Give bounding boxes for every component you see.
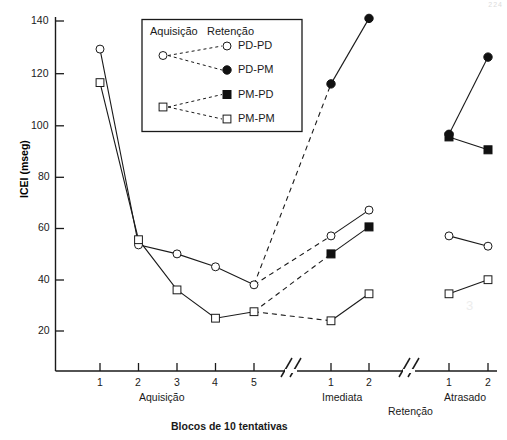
x-axis-title: Blocos de 10 tentativas [171,420,288,432]
y-axis-ticks [56,21,65,331]
legend-label-pd-pm: PD-PM [238,63,273,75]
x-tick-label-acq-1: 1 [97,376,103,388]
legend-label-pm-pd: PM-PD [238,88,273,100]
x-tick-label-acq-4: 4 [212,376,218,388]
legend-marker-pd-pm-icon [223,66,231,74]
y-tick-label-40: 40 [38,273,50,285]
y-tick-label-20: 20 [38,324,50,336]
legend-header-retention: Retenção [207,25,254,37]
x-group-label-retention: Retenção [388,405,433,417]
x-tick-label-imm-2: 2 [366,376,372,388]
y-tick-label-140: 140 [31,14,49,26]
page-number-artifact: 224 [488,1,503,8]
x-tick-label-acq-5: 5 [251,376,257,388]
chart-figure: 140 120 100 80 60 40 20 ICEI (mseg) 1 2 … [0,0,507,440]
legend-header-acquisition: Aquisição [150,25,198,37]
immediate-retention-lines [331,18,369,320]
x-tick-label-acq-2: 2 [135,376,141,388]
axis-break-marks [281,358,419,377]
y-tick-label-120: 120 [31,67,49,79]
x-tick-label-acq-3: 3 [174,376,180,388]
side-mark-artifact: 3 [466,300,473,311]
legend-marker-pm-pm-icon [223,115,231,123]
y-tick-label-80: 80 [38,170,50,182]
x-section-label-acquisition: Aquisição [139,391,185,403]
delayed-retention-lines [449,57,488,294]
legend-label-pm-pm: PM-PM [238,112,275,124]
x-section-label-delayed: Atrasado [444,391,486,403]
x-section-label-immediate: Imediata [322,391,362,403]
legend-marker-pm-pd-icon [223,91,231,99]
legend-label-pd-pd: PD-PD [238,39,272,51]
x-tick-label-imm-1: 1 [328,376,334,388]
legend-marker-acquisition-square [159,103,167,111]
y-tick-label-100: 100 [31,119,49,131]
x-tick-label-del-2: 2 [485,376,491,388]
y-tick-label-60: 60 [38,221,50,233]
legend-marker-pd-pd-icon [223,42,231,50]
y-axis-title: ICEI (mseg) [18,129,30,209]
legend-marker-acquisition-circle [159,52,167,60]
x-tick-label-del-1: 1 [446,376,452,388]
